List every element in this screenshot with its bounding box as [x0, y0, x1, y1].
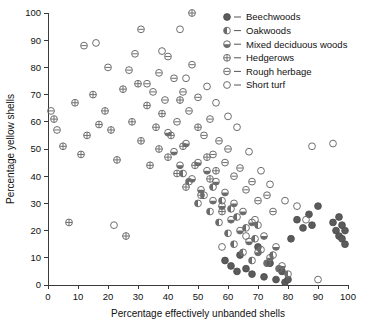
x-axis-title: Percentage effectively unbanded shells	[111, 308, 285, 319]
data-point	[60, 143, 67, 150]
data-point	[261, 233, 268, 240]
data-point	[195, 94, 202, 101]
scatter-plot-figure: 0102030405060708090100010203040506070809…	[0, 0, 370, 323]
data-point	[225, 146, 232, 153]
data-point	[177, 97, 184, 104]
data-point	[240, 249, 247, 256]
data-point	[342, 241, 349, 248]
series-hedgerows	[51, 10, 226, 240]
legend-marker	[224, 54, 231, 61]
data-point	[249, 178, 256, 185]
data-point	[204, 83, 211, 90]
data-point	[126, 67, 133, 74]
data-point	[249, 257, 256, 264]
data-point	[255, 197, 262, 204]
y-tick-label: 40	[30, 171, 41, 182]
data-point	[228, 216, 235, 223]
data-point	[198, 192, 205, 199]
y-tick-label: 60	[30, 116, 41, 127]
data-point	[171, 75, 178, 82]
x-tick-label: 20	[103, 291, 114, 302]
data-point	[147, 162, 154, 169]
data-point	[54, 127, 61, 134]
data-point	[144, 80, 151, 87]
data-point	[207, 208, 214, 215]
data-point	[273, 244, 280, 251]
data-point	[342, 227, 349, 234]
data-point	[234, 268, 241, 275]
data-point	[144, 102, 151, 109]
data-point	[72, 99, 79, 106]
data-point	[243, 233, 250, 240]
y-tick-label: 70	[30, 89, 41, 100]
data-point	[195, 124, 202, 131]
data-point	[243, 265, 250, 272]
data-point	[195, 200, 202, 207]
x-tick-label: 100	[340, 291, 356, 302]
data-point	[210, 151, 217, 158]
legend-label-hedgerows: Hedgerows	[246, 52, 294, 63]
data-point	[300, 224, 307, 231]
data-point	[246, 148, 253, 155]
y-tick-label: 50	[30, 143, 41, 154]
legend-marker	[224, 14, 231, 21]
data-point	[222, 189, 229, 196]
data-point	[84, 132, 91, 139]
data-point	[165, 154, 172, 161]
x-tick-label: 30	[133, 291, 144, 302]
legend: BeechwoodsOakwoodsMixed deciduous woodsH…	[224, 11, 348, 90]
data-point	[162, 97, 169, 104]
data-point	[189, 176, 196, 183]
data-point	[180, 143, 187, 150]
data-point	[258, 167, 265, 174]
data-point	[90, 91, 97, 98]
data-point	[201, 132, 208, 139]
data-point	[192, 162, 199, 169]
data-point	[264, 192, 271, 199]
x-tick-label: 0	[45, 291, 50, 302]
data-point	[108, 127, 115, 134]
legend-label-oakwoods: Oakwoods	[246, 25, 291, 36]
data-point	[228, 263, 235, 270]
data-point	[129, 118, 136, 125]
data-point	[180, 88, 187, 95]
legend-label-rough-herbage: Rough herbage	[246, 66, 312, 77]
data-point	[159, 48, 166, 55]
data-point	[294, 216, 301, 223]
data-point	[168, 132, 175, 139]
data-point	[207, 116, 214, 123]
data-point	[102, 108, 109, 115]
y-tick-label: 90	[30, 35, 41, 46]
data-point	[183, 184, 190, 191]
x-tick-label: 50	[193, 291, 204, 302]
data-point	[138, 137, 145, 144]
legend-marker	[224, 82, 231, 89]
y-axis-title: Percentage yellow shells	[5, 94, 16, 204]
data-point	[138, 26, 145, 33]
data-point	[171, 148, 178, 155]
data-point	[159, 110, 166, 117]
data-point	[177, 26, 184, 33]
data-point	[219, 244, 226, 251]
data-point	[237, 165, 244, 172]
data-point	[315, 276, 322, 283]
data-point	[204, 167, 211, 174]
data-point	[330, 140, 337, 147]
data-point	[111, 222, 118, 229]
data-point	[153, 124, 160, 131]
legend-marker	[224, 27, 231, 34]
data-point	[105, 64, 112, 71]
data-point	[150, 88, 157, 95]
data-point	[270, 208, 277, 215]
data-point	[189, 61, 196, 68]
data-point	[261, 273, 268, 280]
data-point	[174, 118, 181, 125]
data-point	[207, 176, 214, 183]
legend-label-beechwoods: Beechwoods	[246, 11, 301, 22]
data-point	[78, 151, 85, 158]
series-oakwoods	[180, 170, 292, 277]
data-point	[309, 143, 316, 150]
data-point	[51, 116, 58, 123]
plot-canvas: 0102030405060708090100010203040506070809…	[0, 0, 370, 323]
x-tick-label: 90	[313, 291, 324, 302]
